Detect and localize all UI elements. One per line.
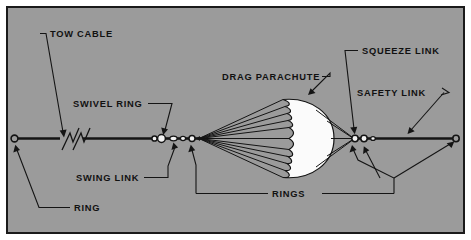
right-cluster-link	[371, 137, 376, 141]
label-swing-link: SWING LINK	[76, 173, 139, 183]
drag-parachute-diagram: TOW CABLE SWIVEL RING SWING LINK RING DR…	[0, 0, 471, 240]
label-safety-link: SAFETY LINK	[357, 88, 426, 98]
figure-root: TOW CABLE SWIVEL RING SWING LINK RING DR…	[0, 0, 471, 240]
cluster-link-2	[180, 136, 185, 140]
label-swivel-ring: SWIVEL RING	[73, 99, 143, 109]
swivel-ring-part	[158, 135, 166, 143]
right-end-ring	[453, 135, 459, 141]
right-cluster-ring-2	[361, 135, 367, 141]
left-end-ring	[11, 135, 18, 142]
swing-link-part	[170, 136, 177, 141]
squeeze-link-ring	[352, 135, 358, 141]
cluster-small-ring	[152, 136, 157, 141]
label-rings: RINGS	[272, 189, 305, 199]
label-ring: RING	[74, 203, 100, 213]
forward-ring	[189, 136, 195, 142]
panel-background	[7, 7, 464, 233]
label-squeeze-link: SQUEEZE LINK	[362, 46, 440, 56]
label-tow-cable: TOW CABLE	[50, 29, 113, 39]
label-drag-parachute: DRAG PARACHUTE	[222, 72, 320, 82]
